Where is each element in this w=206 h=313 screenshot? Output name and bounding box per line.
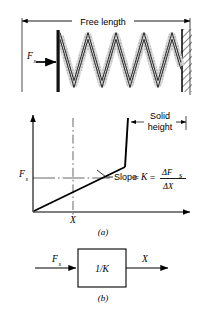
solid-height-label-line1: Solid — [150, 111, 170, 121]
spring-model-figure: Free length F s F s X — [0, 0, 206, 313]
fixed-wall-hatch-icon — [182, 29, 192, 92]
graph-x-label: X — [69, 215, 77, 225]
applied-force-label: F — [26, 51, 33, 61]
slope-equals-2: = — [150, 172, 155, 182]
slope-symbol-k: K — [140, 172, 148, 182]
fraction-denominator: ΔX — [162, 181, 174, 191]
block-input-label: F — [51, 254, 58, 264]
fraction-numerator: ΔF — [161, 167, 173, 177]
block-output-label: X — [141, 254, 149, 264]
slope-equals-1: = — [134, 172, 139, 182]
caption-a: (a) — [98, 227, 109, 237]
caption-b: (b) — [98, 293, 109, 303]
solid-height-label-line2: height — [148, 122, 173, 132]
block-label: 1/K — [95, 264, 109, 274]
free-length-label: Free length — [80, 17, 126, 27]
graph-y-label: F — [18, 169, 25, 179]
end-plate-icon — [57, 30, 60, 92]
